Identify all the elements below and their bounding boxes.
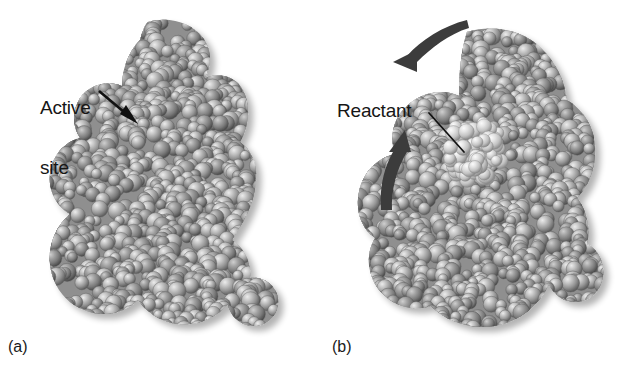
- panel-a: Active site (a): [0, 0, 317, 379]
- reactant-label: Reactant: [337, 101, 411, 121]
- enzyme-figure: Active site (a): [0, 0, 634, 379]
- panel-caption-b: (b): [332, 338, 352, 356]
- panel-caption-a: (a): [8, 338, 28, 356]
- active-site-label-line2: site: [40, 158, 91, 178]
- panel-b: Reactant (b): [317, 0, 634, 379]
- active-site-label-line1: Active: [40, 98, 91, 118]
- enzyme-molecule-b: [317, 0, 634, 379]
- active-site-label: Active site: [40, 58, 91, 218]
